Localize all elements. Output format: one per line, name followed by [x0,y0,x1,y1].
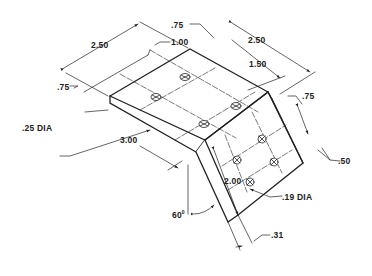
hole-large [231,103,241,110]
dim-hole-dia-small: .19 DIA [282,193,312,202]
dim-top-length: 2.50 [91,41,108,50]
dim-edge-offset-left: .75 [57,83,69,92]
hole-small [233,156,241,164]
dim-top-depth: 3.00 [120,136,137,145]
hole-large [199,121,209,128]
dim-bend-angle: 600 [172,210,185,219]
dim-hole-offset-top: 1.00 [171,38,188,47]
dim-hole-dia-large: .25 DIA [22,124,52,133]
hole-small [246,178,254,186]
dim-flange-length: 2.00 [224,177,241,186]
dim-flange-edge-offset: .50 [338,157,350,166]
hole-large [151,94,161,101]
part-outline [110,49,303,222]
dim-right-width: 2.50 [248,36,265,45]
hole-small [270,158,278,166]
dim-thickness: .31 [271,231,283,240]
hole-small [258,135,266,143]
dim-hole-spacing-right: 1.50 [249,60,266,69]
dim-flange-hole-offset: .75 [302,92,314,101]
hole-large [180,74,190,81]
dim-edge-offset-top: .75 [171,21,183,30]
